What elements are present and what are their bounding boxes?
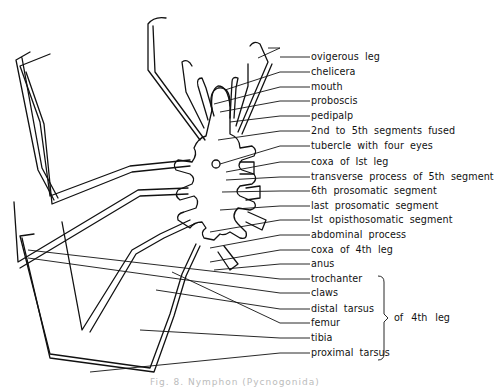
eye-tubercle: [212, 160, 220, 168]
label-6th-prosomatic-segment: 6th prosomatic segment: [311, 185, 437, 196]
label-distal-tarsus: distal tarsus: [311, 303, 374, 314]
label-pedipalp: pedipalp: [311, 110, 353, 121]
label-mouth: mouth: [311, 81, 343, 92]
figure-caption: Fig. 8. Nymphon (Pycnogonida): [150, 377, 320, 387]
label-ovigerous-leg: ovigerous leg: [311, 51, 380, 62]
label-abdominal-process: abdominal process: [311, 229, 406, 240]
label-transverse-process-of-5th-segment: transverse process of 5th segment: [311, 171, 494, 182]
label-tibia: tibia: [311, 332, 333, 343]
label-femur: femur: [311, 317, 340, 328]
label-last-prosomatic-segment: last prosomatic segment: [311, 200, 438, 211]
label-proximal-tarsus: proximal tarsus: [311, 347, 390, 358]
bracket-label: of 4th leg: [394, 312, 450, 323]
label-anus: anus: [311, 258, 334, 269]
label-claws: claws: [311, 287, 338, 298]
label-proboscis: proboscis: [311, 95, 358, 106]
label-coxa-of-4th-leg: coxa of 4th leg: [311, 244, 393, 255]
label-trochanter: trochanter: [311, 273, 362, 284]
body-outline: [174, 88, 255, 240]
label-tubercle-with-four-eyes: tubercle with four eyes: [311, 140, 433, 151]
label-2nd-to-5th-segments-fused: 2nd to 5th segments fused: [311, 125, 455, 136]
label-ist-opisthosomatic-segment: Ist opisthosomatic segment: [311, 214, 453, 225]
label-coxa-of-ist-leg: coxa of Ist leg: [311, 156, 389, 167]
label-chelicera: chelicera: [311, 66, 356, 77]
